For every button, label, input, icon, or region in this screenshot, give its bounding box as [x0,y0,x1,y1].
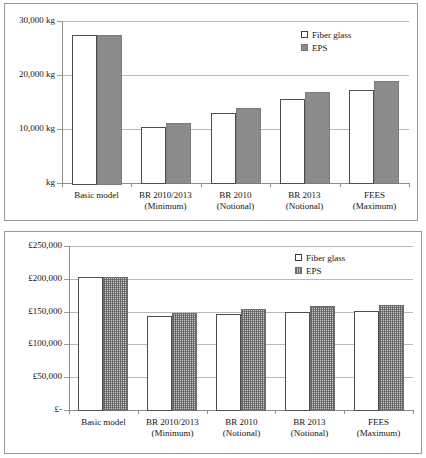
category-label-line1: FEES [364,190,385,200]
bar-fiber-glass [72,35,97,185]
bar-fiber-glass [78,277,103,411]
category-label-line1: BR 2013 [288,190,320,200]
category-label-line1: BR 2010/2013 [146,417,199,427]
bar-eps [374,81,399,184]
eps-swatch-icon [295,267,302,274]
bar-eps [379,305,404,411]
fiber-glass-swatch-icon [295,254,302,261]
bar-fiber-glass [147,316,172,411]
x-axis-category-tick [413,410,414,414]
x-axis-category-label: FEES(Maximum) [340,190,409,212]
legend-item[interactable]: EPS [295,264,345,277]
x-axis-category-tick [340,183,341,187]
category-label-line2: (Notional) [275,428,344,439]
bar-eps [97,35,122,185]
bar-eps [172,313,197,411]
plot-area-bottom: £-£50,000£100,000£150,000£200,000£250,00… [5,232,421,453]
x-axis-category-tick [201,183,202,187]
x-axis-category-tick [131,183,132,187]
x-axis-category-tick [409,183,410,187]
category-label-line1: BR 2010 [225,417,257,427]
legend-item[interactable]: Fiber glass [301,28,351,41]
x-axis-category-label: BR 2010/2013(Minimum) [131,190,200,212]
category-label-line2: (Maximum) [340,201,409,212]
x-axis-category-label: Basic model [62,190,131,201]
category-label-line1: BR 2010 [219,190,251,200]
bar-fiber-glass [285,312,310,411]
y-axis-tick-label: £250,000 [7,241,62,250]
legend-item-label: Fiber glass [312,30,351,40]
bar-fiber-glass [141,127,166,184]
legend-item-label: Fiber glass [306,253,345,263]
gridline [62,21,409,22]
category-label-line2: (Minimum) [131,201,200,212]
x-axis-category-label: BR 2010/2013(Minimum) [138,417,207,439]
x-axis-category-tick [69,410,70,414]
x-axis-category-label: BR 2013(Notional) [270,190,339,212]
y-axis-tick-label: 20,000 kg [7,70,55,79]
y-axis-tick-label: kg [7,178,55,187]
x-axis-category-tick [138,410,139,414]
category-label-line1: BR 2013 [293,417,325,427]
bar-eps [166,123,191,184]
y-axis-line [62,21,63,184]
category-label-line2: (Notional) [201,201,270,212]
x-axis-category-label: BR 2010(Notional) [207,417,276,439]
x-axis-category-tick [275,410,276,414]
bar-fiber-glass [349,90,374,184]
chart-legend: Fiber glassEPS [301,28,351,54]
figure-page: kg10,000 kg20,000 kg30,000 kgBasic model… [0,0,426,458]
category-label-line2: (Minimum) [138,428,207,439]
x-axis-category-label: BR 2010(Notional) [201,190,270,212]
bar-eps [305,92,330,184]
x-axis-category-tick [62,183,63,187]
y-axis-tick-label: £200,000 [7,274,62,283]
bar-eps [103,277,128,411]
x-axis-category-tick [270,183,271,187]
chart-legend: Fiber glassEPS [295,251,345,277]
y-axis-tick-label: £100,000 [7,339,62,348]
category-label-line2: (Notional) [207,428,276,439]
legend-item-label: EPS [312,43,328,53]
chart-embodied-carbon: kg10,000 kg20,000 kg30,000 kgBasic model… [4,3,418,221]
plot-area-top: kg10,000 kg20,000 kg30,000 kgBasic model… [5,4,417,220]
bar-fiber-glass [216,314,241,411]
category-label-line1: Basic model [74,190,119,200]
bar-fiber-glass [280,99,305,184]
bar-fiber-glass [354,311,379,411]
category-label-line1: FEES [368,417,389,427]
gridline [69,246,413,247]
bar-eps [241,309,266,411]
bar-eps [236,108,261,184]
y-axis-tick-label: 30,000 kg [7,16,55,25]
legend-item-label: EPS [306,266,322,276]
bar-eps [310,306,335,411]
category-label-line2: (Notional) [270,201,339,212]
fiber-glass-swatch-icon [301,31,308,38]
legend-item[interactable]: EPS [301,41,351,54]
category-label-line2: (Maximum) [344,428,413,439]
x-axis-category-tick [344,410,345,414]
category-label-line1: BR 2010/2013 [139,190,192,200]
y-axis-tick-label: £50,000 [7,372,62,381]
chart-lifecycle-cost: £-£50,000£100,000£150,000£200,000£250,00… [4,231,422,454]
x-axis-category-label: FEES(Maximum) [344,417,413,439]
category-label-line1: Basic model [81,417,126,427]
x-axis-category-label: Basic model [69,417,138,428]
x-axis-category-tick [207,410,208,414]
bar-fiber-glass [211,113,236,184]
legend-item[interactable]: Fiber glass [295,251,345,264]
eps-swatch-icon [301,44,308,51]
x-axis-category-label: BR 2013(Notional) [275,417,344,439]
y-axis-tick-label: £- [7,405,62,414]
y-axis-line [69,246,70,411]
y-axis-tick-label: 10,000 kg [7,124,55,133]
y-axis-tick-label: £150,000 [7,307,62,316]
